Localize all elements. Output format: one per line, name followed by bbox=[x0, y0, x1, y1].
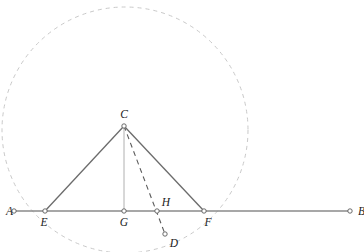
point-marker-F[interactable] bbox=[202, 209, 206, 213]
point-label-G: G bbox=[120, 216, 129, 228]
segment-CD-cevian bbox=[124, 126, 165, 234]
point-label-A: A bbox=[5, 205, 14, 217]
geometry-figure: AECGHFDB bbox=[0, 0, 364, 252]
point-label-B: B bbox=[358, 205, 364, 217]
segment-EC bbox=[45, 126, 124, 211]
point-label-F: F bbox=[203, 216, 212, 228]
point-marker-D[interactable] bbox=[163, 232, 167, 236]
point-marker-G[interactable] bbox=[122, 209, 126, 213]
point-label-H: H bbox=[161, 196, 171, 208]
points-layer: AECGHFDB bbox=[5, 108, 364, 249]
point-marker-B[interactable] bbox=[348, 209, 352, 213]
point-marker-E[interactable] bbox=[43, 209, 47, 213]
geometry-canvas: AECGHFDB bbox=[0, 0, 364, 252]
point-label-D: D bbox=[169, 237, 179, 249]
point-marker-H[interactable] bbox=[155, 209, 159, 213]
point-label-E: E bbox=[39, 216, 47, 228]
point-label-C: C bbox=[120, 108, 128, 120]
point-marker-C[interactable] bbox=[122, 124, 126, 128]
